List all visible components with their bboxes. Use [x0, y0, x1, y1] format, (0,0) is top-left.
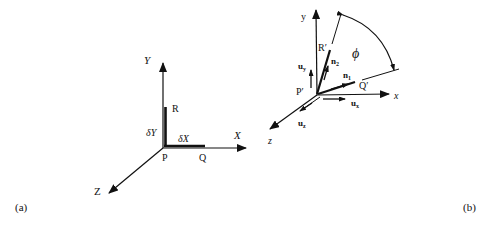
segment-pr-prime: [317, 50, 330, 94]
panel-a: Y X Z R P Q δY δX (a): [15, 54, 246, 214]
label-uy: uy: [298, 61, 306, 72]
point-label-r: R: [172, 103, 179, 114]
x-axis-b: [317, 94, 389, 95]
angle-label-phi: ϕ: [352, 46, 359, 61]
point-label-q: Q: [199, 152, 207, 163]
axis-label-y-b: y: [301, 11, 306, 22]
z-axis-a: [109, 148, 163, 193]
line-q-prime-ext: [362, 69, 399, 80]
axis-label-x-a: X: [233, 129, 242, 141]
axis-label-x-b: x: [393, 90, 399, 101]
label-ux: ux: [351, 98, 359, 109]
point-label-q-prime: Q′: [359, 80, 368, 91]
axis-label-z-b: z: [267, 135, 272, 146]
label-n1: n1: [343, 70, 351, 81]
point-label-r-prime: R′: [318, 42, 327, 53]
segment-label-dx: δX: [178, 133, 190, 144]
panel-b: y x z R′ Q′ P′ ϕ uy ux uz n1 n2 (b): [267, 10, 476, 214]
panel-label-b: (b): [463, 201, 476, 214]
label-uz: uz: [298, 118, 306, 129]
point-label-p-prime: P′: [296, 86, 304, 97]
angle-arc-phi: [343, 15, 394, 70]
unit-vector-n1: [331, 84, 348, 89]
diagram-canvas: Y X Z R P Q δY δX (a) y x z R′ Q′ P′ ϕ u…: [0, 0, 492, 226]
y-axis-b: [316, 10, 317, 95]
line-r-prime-ext: [332, 14, 341, 44]
point-label-p: P: [162, 152, 168, 163]
axis-label-z-a: Z: [94, 185, 101, 197]
panel-label-a: (a): [15, 201, 28, 214]
label-n2: n2: [331, 56, 339, 67]
z-axis-b: [270, 95, 317, 129]
axis-label-y-a: Y: [144, 54, 152, 66]
unit-vector-uz: [300, 103, 312, 111]
segment-label-dy: δY: [146, 127, 158, 138]
